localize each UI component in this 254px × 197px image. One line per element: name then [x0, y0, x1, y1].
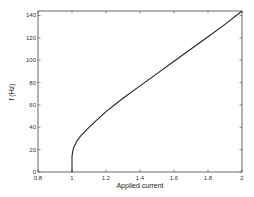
y-tick-label: 60	[29, 102, 36, 108]
y-tick-label: 100	[26, 57, 37, 63]
x-tick-label: 1.8	[204, 175, 213, 181]
plot-area	[72, 11, 242, 172]
y-tick-label: 20	[29, 147, 36, 153]
axes: 0.811.21.41.61.82020406080100120140	[26, 11, 244, 181]
y-axis-label: f (Hz)	[8, 83, 16, 100]
axes-frame	[38, 11, 242, 172]
x-tick-label: 1.6	[170, 175, 179, 181]
x-tick-label: 1	[70, 175, 74, 181]
y-tick-label: 80	[29, 80, 36, 86]
y-tick-label: 40	[29, 124, 36, 130]
x-axis-label: Applied current	[116, 182, 163, 190]
y-tick-label: 140	[26, 12, 37, 18]
x-tick-label: 1.2	[102, 175, 111, 181]
x-tick-label: 1.4	[136, 175, 145, 181]
series-line	[72, 11, 242, 172]
y-tick-label: 120	[26, 35, 37, 41]
chart: 0.811.21.41.61.82020406080100120140 Appl…	[0, 0, 254, 197]
x-tick-label: 0.8	[34, 175, 43, 181]
x-tick-label: 2	[240, 175, 244, 181]
